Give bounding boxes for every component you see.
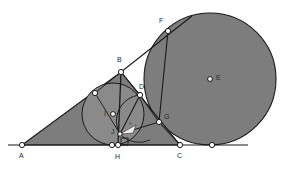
label-i: I: [104, 110, 106, 117]
label-angle-a: a: [129, 122, 132, 127]
vertex-b[interactable]: [118, 69, 123, 74]
vertex-f[interactable]: [165, 28, 170, 33]
vertex-c[interactable]: [177, 142, 182, 147]
geometry-figure: A B C D E F G H I J a: [0, 0, 299, 173]
vertex-h[interactable]: [115, 142, 120, 147]
vertex-tangent-base[interactable]: [209, 142, 214, 147]
vertex-d[interactable]: [137, 92, 142, 97]
label-g: G: [164, 113, 170, 120]
vertex-tangent-ab[interactable]: [92, 90, 97, 95]
vertex-j[interactable]: [118, 132, 122, 136]
label-d: D: [139, 83, 144, 90]
label-a: A: [19, 152, 24, 159]
geometry-canvas: [0, 0, 299, 173]
center-e[interactable]: [208, 77, 213, 82]
label-f: F: [159, 17, 163, 24]
label-b: B: [117, 56, 122, 63]
vertex-a[interactable]: [19, 142, 24, 147]
vertex-g[interactable]: [156, 119, 161, 124]
label-e: E: [216, 74, 221, 81]
vertex-h2[interactable]: [109, 142, 114, 147]
label-j: J: [111, 128, 115, 135]
label-h: H: [115, 153, 120, 160]
label-c: C: [177, 152, 182, 159]
center-i[interactable]: [111, 112, 116, 117]
